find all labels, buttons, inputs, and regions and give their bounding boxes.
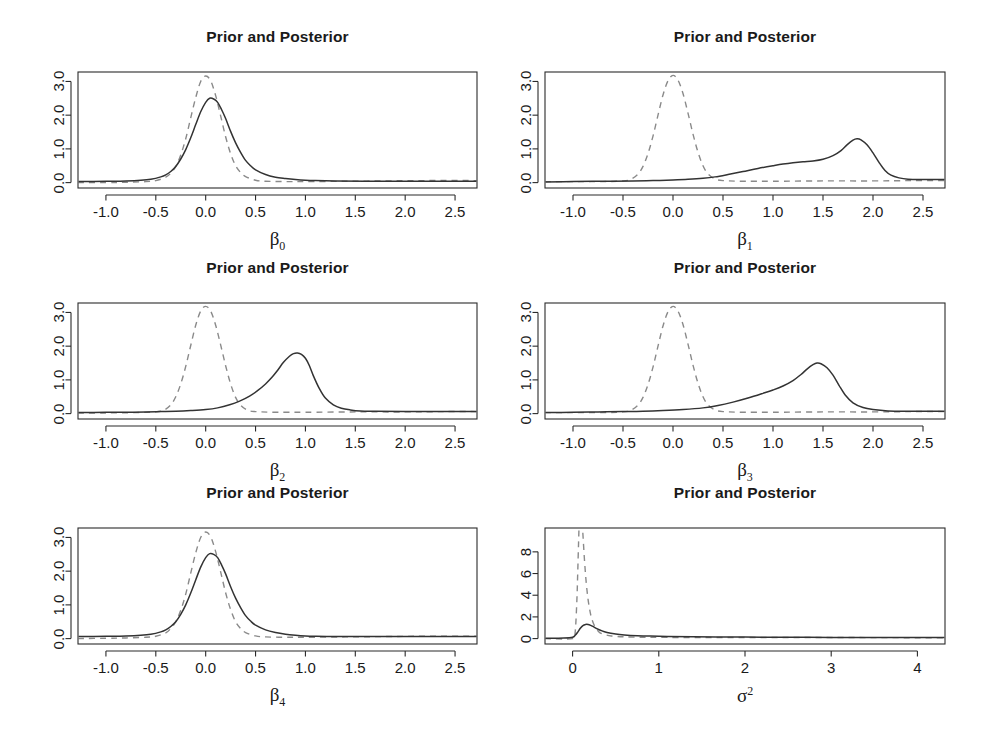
x-tick-label: 1 [619, 659, 699, 676]
prior-curve-sigma2 [545, 502, 945, 639]
y-tick-label: 8 [517, 529, 535, 575]
x-tick-label: 4 [877, 659, 957, 676]
posterior-curve-sigma2 [545, 624, 945, 638]
x-tick-label: 3 [791, 659, 871, 676]
x-axis-label-symbol: σ [737, 685, 747, 706]
prior-posterior-figure: Prior and Posterior-1.0-0.50.00.51.01.52… [0, 0, 990, 740]
plot-area-sigma2 [0, 0, 990, 740]
x-tick-label: 0 [533, 659, 613, 676]
panel-sigma2: Prior and Posterior0123402468σ2 [0, 0, 990, 740]
x-tick-label: 2 [705, 659, 785, 676]
plot-box-sigma2 [545, 528, 945, 644]
x-axis-label-superscript: 2 [747, 684, 753, 698]
x-axis-label-sigma2: σ2 [545, 684, 945, 707]
